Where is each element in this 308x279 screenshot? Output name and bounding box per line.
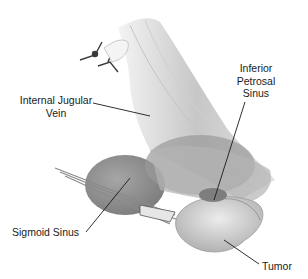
- label-ips-line2: Petrosal: [226, 75, 286, 88]
- label-ijv-line2: Vein: [10, 107, 102, 120]
- label-ips-line1: Inferior: [226, 62, 286, 75]
- tumor-shape: [176, 196, 263, 252]
- label-ips-line3: Sinus: [226, 87, 286, 100]
- label-sigmoid-sinus: Sigmoid Sinus: [12, 226, 79, 239]
- label-ijv-line1: Internal Jugular: [10, 94, 102, 107]
- label-tumor: Tumor: [262, 260, 292, 273]
- label-internal-jugular-vein: Internal Jugular Vein: [10, 94, 102, 119]
- label-inferior-petrosal-sinus: Inferior Petrosal Sinus: [226, 62, 286, 100]
